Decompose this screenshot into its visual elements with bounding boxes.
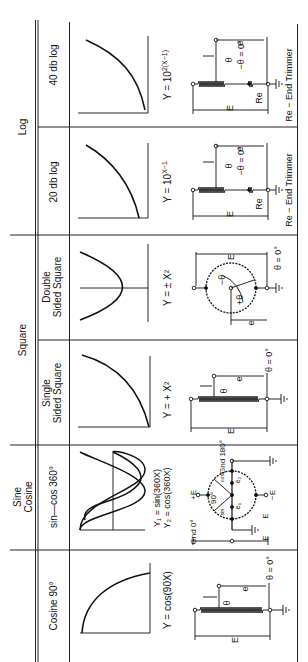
svg-text:e: e [234, 376, 244, 381]
labels-single-sided-square: E θ = 0° θ e [219, 348, 274, 434]
svg-text:e: e [246, 320, 256, 325]
labels-sin-cos-360: Gnd 0° Gnd 180° +E −E 90° sin cos e₁ e₂ … [189, 440, 277, 544]
svg-text:−E: −E [268, 490, 277, 500]
equation-double-sided-square: Y = ± X² [162, 269, 173, 306]
labels-double-sided-square: E θ = 0° −θ +θ e [217, 246, 283, 326]
svg-text:Cosine 90°: Cosine 90° [48, 581, 59, 630]
group-label-square: Square [17, 323, 28, 356]
curve-single-sided-square [78, 355, 150, 427]
svg-text:20 db log: 20 db log [48, 161, 59, 202]
header-double-sided-square: Double Sided Square [41, 256, 63, 317]
svg-text:Y = 102(X−1): Y = 102(X−1) [161, 50, 173, 100]
svg-text:Re: Re [254, 92, 264, 104]
svg-text:Re − End Trimmer: Re − End Trimmer [284, 48, 294, 121]
svg-text:Re: Re [254, 198, 264, 210]
svg-text:+θ: +θ [235, 295, 245, 305]
svg-text:θ: θ [222, 600, 232, 605]
svg-text:sin: sin [219, 509, 225, 516]
svg-text:θ: θ [224, 57, 234, 62]
svg-text:e: e [235, 40, 245, 45]
svg-text:E: E [261, 513, 270, 518]
header-20db-log: 20 db log [48, 161, 59, 202]
svg-text:Cosine: Cosine [23, 481, 34, 513]
svg-text:θ = 0°: θ = 0° [265, 556, 275, 580]
svg-text:Y = + X²: Y = + X² [162, 381, 173, 418]
svg-text:E: E [261, 535, 270, 540]
equation-20db-log: Y = 10X−1 [161, 161, 173, 203]
svg-text:e: e [235, 146, 245, 151]
svg-text:Sine: Sine [12, 487, 23, 507]
svg-text:Re − End Trimmer: Re − End Trimmer [284, 153, 294, 226]
group-label-sine-cosine: Sine Cosine [12, 481, 34, 513]
equation-single-sided-square: Y = + X² [162, 381, 173, 418]
svg-text:cos: cos [219, 474, 225, 482]
svg-text:Sided Square: Sided Square [52, 256, 63, 317]
equation-sin-cos-360: Y₁ = sin(360X) Y₂ = cos(360X) [152, 468, 172, 529]
svg-text:40 db log: 40 db log [48, 44, 59, 85]
header-40db-log: 40 db log [48, 44, 59, 85]
svg-text:e₁: e₁ [234, 502, 241, 509]
svg-text:E: E [226, 254, 236, 260]
svg-text:Sided Square: Sided Square [52, 362, 63, 423]
svg-text:sin—cos 360°: sin—cos 360° [48, 466, 59, 528]
svg-text:E: E [226, 428, 236, 434]
svg-text:θ = 0°: θ = 0° [264, 348, 274, 372]
circuit-double-sided-square [192, 252, 282, 325]
svg-text:Square: Square [17, 323, 28, 356]
svg-text:Y = 10X−1: Y = 10X−1 [161, 161, 173, 203]
svg-text:e₂: e₂ [234, 476, 241, 483]
svg-text:Y₂ = cos(360X): Y₂ = cos(360X) [162, 468, 172, 529]
svg-text:Double: Double [41, 271, 52, 303]
svg-text:θ = 0°: θ = 0° [273, 246, 283, 270]
svg-text:θ: θ [219, 388, 229, 393]
curve-sin-cos-360 [80, 452, 145, 530]
svg-text:E: E [230, 637, 240, 643]
labels-40db-log: E −θ = 0° θ e Re Re − End Trimmer [224, 40, 294, 122]
header-sin-cos-360: sin—cos 360° [48, 466, 59, 528]
svg-text:Y₁ = sin(360X): Y₁ = sin(360X) [152, 469, 162, 527]
svg-text:Gnd 180°: Gnd 180° [218, 440, 227, 474]
svg-text:Y = cos(90X): Y = cos(90X) [162, 571, 173, 629]
svg-text:Y = ± X²: Y = ± X² [162, 269, 173, 306]
labels-20db-log: E −θ = 0° θ e Re Re − End Trimmer [224, 146, 294, 227]
circuit-sin-cos-360 [193, 456, 276, 545]
svg-text:Gnd 0°: Gnd 0° [189, 520, 198, 545]
svg-text:E: E [225, 211, 235, 217]
header-single-sided-square: Single Sided Square [41, 362, 63, 423]
svg-text:E: E [225, 105, 235, 111]
svg-text:90°: 90° [209, 492, 218, 504]
svg-text:−θ: −θ [217, 275, 227, 285]
header-cosine-90: Cosine 90° [48, 581, 59, 630]
svg-text:e: e [240, 586, 250, 591]
equation-40db-log: Y = 102(X−1) [161, 50, 173, 100]
svg-text:+E: +E [189, 490, 198, 500]
curve-double-sided-square [80, 244, 148, 322]
equation-cosine-90: Y = cos(90X) [162, 571, 173, 629]
potentiometer-function-table: Log Square Sine Cosine 40 db log 20 db l… [0, 0, 308, 662]
curve-cosine-90 [80, 563, 150, 633]
curve-20db-log [78, 143, 148, 218]
curve-40db-log [78, 36, 148, 113]
group-label-log: Log [17, 119, 28, 136]
svg-text:Single: Single [41, 379, 52, 407]
labels-cosine-90: E θ = 0° θ e [222, 556, 275, 643]
svg-text:θ: θ [224, 163, 234, 168]
svg-text:Log: Log [17, 119, 28, 136]
